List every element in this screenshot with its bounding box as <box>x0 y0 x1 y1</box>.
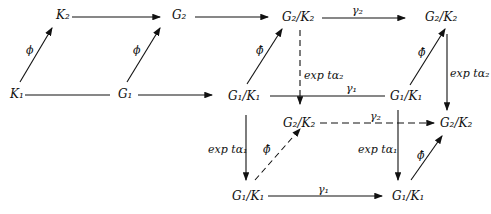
label-phibar-right: ϕ̄ <box>418 46 426 59</box>
label-phi-left: ϕ <box>26 44 34 57</box>
label-exp-ta2-mid: exp tα₂ <box>304 69 344 82</box>
label-exp-ta1-right: exp tα₁ <box>358 143 398 156</box>
label-phi-mid: ϕ <box>133 44 141 57</box>
node-g1k1-bottomright: G₁/K₁ <box>392 189 424 203</box>
label-phibar-low: ϕ̄ <box>263 143 271 156</box>
commutative-diagram: K₂ G₂ G₂/K₂ G₂/K₂ K₁ G₁ G₁/K₁ G₁/K₁ G₂/K… <box>0 0 491 214</box>
label-exp-ta1-left: exp tα₁ <box>208 143 248 156</box>
node-g2k2-lowright: G₂/K₂ <box>440 116 472 130</box>
label-gamma1-bottom: γ₁ <box>318 183 329 196</box>
label-gamma1-mid: γ₁ <box>346 82 357 95</box>
node-g1k1-midright: G₁/K₁ <box>390 89 422 103</box>
node-g2k2-topright: G₂/K₂ <box>425 10 457 24</box>
label-gamma2-low: γ₂ <box>370 110 381 123</box>
label-gamma2-top: γ₂ <box>352 4 363 17</box>
label-exp-ta2-right: exp tα₂ <box>450 67 490 80</box>
node-k1: K₁ <box>10 87 24 101</box>
node-g2: G₂ <box>172 8 186 22</box>
node-g2k2-top: G₂/K₂ <box>282 10 314 24</box>
node-k2: K₂ <box>56 8 70 22</box>
node-g1k1-bottom: G₁/K₁ <box>232 189 264 203</box>
node-g2k2-low: G₂/K₂ <box>283 116 315 130</box>
label-phibar-lowright: ϕ̄ <box>417 149 425 162</box>
node-g1k1-mid: G₁/K₁ <box>228 89 260 103</box>
label-phibar-mid: ϕ̄ <box>256 44 264 57</box>
diagram-arrows <box>0 0 491 214</box>
node-g1: G₁ <box>118 87 132 101</box>
